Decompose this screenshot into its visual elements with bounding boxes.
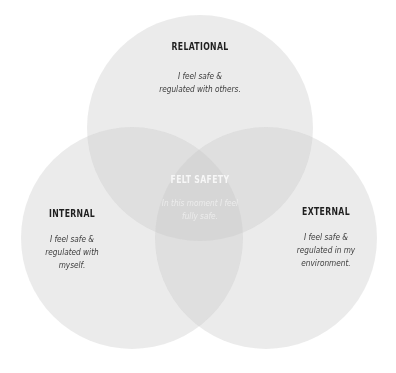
- external-description: I feel safe & regulated in my environmen…: [278, 230, 374, 269]
- external-title: EXTERNAL: [293, 205, 359, 217]
- relational-description: I feel safe & regulated with others.: [130, 69, 270, 95]
- felt-safety-title: FELT SAFETY: [159, 173, 241, 185]
- relational-desc-line-1: I feel safe &: [140, 69, 260, 82]
- relational-desc-line-2: regulated with others.: [140, 82, 260, 95]
- external-label-group: EXTERNAL: [286, 205, 366, 217]
- external-desc-line-3: environment.: [285, 256, 368, 269]
- felt-safety-description: In this moment I feel fully safe.: [140, 196, 260, 222]
- felt-safety-desc-line-2: fully safe.: [148, 209, 251, 222]
- relational-title: RELATIONAL: [151, 40, 249, 52]
- relational-label-group: RELATIONAL: [140, 40, 260, 52]
- internal-label-group: INTERNAL: [32, 207, 112, 219]
- internal-desc-line-2: regulated with: [33, 245, 110, 258]
- internal-description: I feel safe & regulated with myself.: [27, 232, 117, 271]
- venn-diagram: RELATIONAL I feel safe & regulated with …: [0, 0, 396, 373]
- external-desc-line-2: regulated in my: [285, 243, 368, 256]
- venn-circles: [0, 0, 396, 373]
- internal-desc-line-3: myself.: [33, 258, 110, 271]
- felt-safety-desc-line-1: In this moment I feel: [148, 196, 251, 209]
- external-desc-line-1: I feel safe &: [285, 230, 368, 243]
- felt-safety-label-group: FELT SAFETY: [150, 173, 250, 185]
- internal-desc-line-1: I feel safe &: [33, 232, 110, 245]
- internal-title: INTERNAL: [39, 207, 105, 219]
